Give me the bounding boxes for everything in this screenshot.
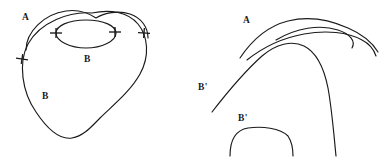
right-arc-b-prime-small-path [230, 127, 293, 156]
tick-outer-left [15, 53, 28, 65]
left-tick-marks-group [15, 27, 150, 65]
right-arc-a-outer-long-path [240, 19, 378, 58]
right-label-b-prime-1: B' [198, 82, 208, 92]
left-label-a: A [22, 12, 29, 22]
figure-root: A B B A B' B' [0, 0, 386, 158]
left-outer-loop-A-path [22, 11, 146, 138]
right-arc-crossing-upper-path [247, 32, 376, 60]
tick-inner-left [50, 28, 62, 38]
left-label-b-inner: B [84, 54, 91, 64]
topology-figure-svg: A B B A B' B' [0, 0, 386, 158]
left-panel-group: A B B [15, 11, 150, 139]
right-label-b-prime-2: B' [238, 113, 248, 123]
right-panel-group: A B' B' [198, 15, 378, 156]
tick-inner-right [109, 27, 121, 37]
right-arc-b-prime-long-path [212, 43, 336, 156]
left-label-b-outer: B [42, 91, 49, 101]
right-label-a: A [243, 15, 250, 25]
tick-outer-right-vertical [144, 28, 145, 38]
left-inner-ellipse-B-path [56, 20, 116, 48]
